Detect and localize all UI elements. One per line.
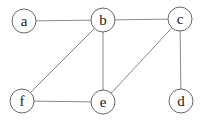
node-label: f [20, 93, 25, 109]
node-d: d [169, 89, 193, 113]
node-f: f [10, 89, 34, 113]
node-label: e [100, 94, 107, 110]
nodes: abcdef [10, 7, 193, 114]
node-label: c [177, 11, 184, 27]
edge-c-e [103, 19, 180, 102]
node-label: a [21, 13, 28, 29]
node-b: b [91, 8, 115, 32]
edge-b-f [22, 20, 103, 101]
node-c: c [168, 7, 192, 31]
node-label: b [99, 12, 107, 28]
node-a: a [12, 9, 36, 33]
graph-diagram: abcdef [0, 0, 204, 123]
node-label: d [177, 93, 185, 109]
node-e: e [91, 90, 115, 114]
